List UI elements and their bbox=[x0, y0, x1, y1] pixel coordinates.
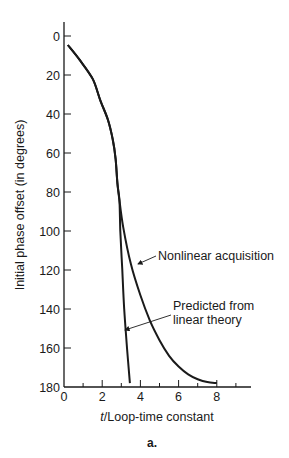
y-axis-ticks: 020406080100120140160180 bbox=[39, 30, 71, 395]
linear-annotation-label-line2: linear theory bbox=[173, 313, 243, 327]
y-tick-label: 20 bbox=[46, 69, 60, 83]
x-axis-ticks: 02468 bbox=[61, 380, 236, 404]
y-tick-label: 180 bbox=[39, 381, 60, 395]
x-tick-label: 0 bbox=[61, 390, 68, 404]
x-tick-label: 4 bbox=[137, 390, 144, 404]
linear-theory-curve bbox=[68, 45, 130, 383]
y-tick-label: 140 bbox=[39, 303, 60, 317]
y-tick-label: 80 bbox=[46, 186, 60, 200]
x-axis-label: t/Loop-time constant bbox=[100, 410, 214, 424]
nonlinear-annotation-label: Nonlinear acquisition bbox=[158, 249, 274, 263]
y-tick-label: 60 bbox=[46, 147, 60, 161]
y-tick-label: 100 bbox=[39, 225, 60, 239]
nonlinear-acquisition-curve bbox=[68, 45, 217, 383]
nonlinear-annotation-arrow bbox=[138, 256, 156, 264]
x-axis-label-rest: /Loop-time constant bbox=[104, 410, 214, 424]
x-tick-label: 6 bbox=[175, 390, 182, 404]
x-tick-label: 8 bbox=[213, 390, 220, 404]
y-tick-label: 120 bbox=[39, 264, 60, 278]
figure-caption: a. bbox=[147, 436, 157, 450]
y-tick-label: 0 bbox=[53, 30, 60, 44]
y-tick-label: 40 bbox=[46, 108, 60, 122]
linear-annotation-label-line1: Predicted from bbox=[173, 299, 254, 313]
phase-offset-chart: 020406080100120140160180 02468 Nonlinear… bbox=[0, 0, 289, 458]
y-axis-label: Initial phase offset (in degrees) bbox=[13, 120, 27, 291]
y-tick-label: 160 bbox=[39, 342, 60, 356]
x-tick-label: 2 bbox=[99, 390, 106, 404]
